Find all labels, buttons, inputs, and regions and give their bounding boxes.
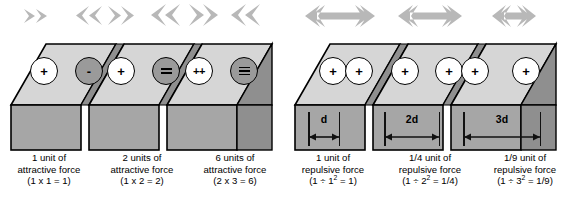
charge-negative-1: - xyxy=(75,57,103,85)
charge-label: + xyxy=(471,65,479,78)
caption-formula: (2 x 3 = 6) xyxy=(190,175,280,187)
repulsive-force-panel: + + + + + + d 2d xyxy=(287,0,574,202)
caption-repulsive-3: 1/9 unit of repulsive force (1 ÷ 32 = 1/… xyxy=(477,152,573,187)
formula-pre: (1 ÷ 1 xyxy=(309,175,333,186)
caption-attractive-1: 1 unit of attractive force (1 x 1 = 1) xyxy=(4,152,94,187)
caption-attractive-2: 2 units of attractive force (1 x 2 = 2) xyxy=(97,152,187,187)
charge-label: + xyxy=(522,65,530,78)
arrow-right-pair-2-icon xyxy=(186,2,224,28)
caption-repulsive-1: 1 unit of repulsive force (1 ÷ 12 = 1) xyxy=(287,152,379,187)
caption-line-1: 1/9 unit of xyxy=(477,152,573,164)
caption-formula: (1 ÷ 32 = 1/9) xyxy=(477,175,573,187)
caption-line-2: attractive force xyxy=(4,164,94,176)
arrow-right-pair-1-icon xyxy=(106,4,140,27)
caption-line-2: attractive force xyxy=(190,164,280,176)
charge-positive-r4: + xyxy=(435,57,463,85)
dimension-label: 3d xyxy=(463,113,541,125)
arrow-right-single-icon xyxy=(22,6,56,26)
charge-label: + xyxy=(355,65,363,78)
distance-dimension-d: d xyxy=(308,112,340,146)
double-arrow-long-icon xyxy=(301,3,379,29)
charge-negative-3 xyxy=(230,57,258,85)
dimension-double-arrow-icon xyxy=(463,131,541,143)
formula-post: = 1/9) xyxy=(525,175,552,186)
charge-label: + xyxy=(329,65,337,78)
caption-line-1: 1 unit of xyxy=(287,152,379,164)
charge-label: ++ xyxy=(193,66,205,77)
charge-label: + xyxy=(445,65,453,78)
double-arrow-short-icon xyxy=(489,3,539,29)
charge-negative-2 xyxy=(152,57,180,85)
charge-positive-2: + xyxy=(107,57,135,85)
charge-positive-3: ++ xyxy=(185,57,213,85)
caption-formula: (1 ÷ 12 = 1) xyxy=(287,175,379,187)
caption-line-2: attractive force xyxy=(97,164,187,176)
charge-label: - xyxy=(87,65,91,78)
double-arrow-medium-icon xyxy=(395,3,465,29)
charge-label-bars xyxy=(161,66,172,76)
distance-dimension-2d: 2d xyxy=(384,112,440,146)
arrow-left-pair-2-icon xyxy=(146,2,184,28)
attractive-force-panel: + - + ++ 1 unit of attractive force (1 x… xyxy=(0,0,287,202)
caption-repulsive-2: 1/4 unit of repulsive force (1 ÷ 22 = 1/… xyxy=(382,152,478,187)
charge-positive-r3: + xyxy=(391,57,419,85)
attractive-arrow-row xyxy=(0,0,287,32)
formula-pre: (1 ÷ 3 xyxy=(497,175,521,186)
charge-positive-r6: + xyxy=(512,57,540,85)
repulsive-arrow-row xyxy=(287,0,574,32)
caption-line-1: 1 unit of xyxy=(4,152,94,164)
caption-line-1: 2 units of xyxy=(97,152,187,164)
caption-line-1: 1/4 unit of xyxy=(382,152,478,164)
formula-pre: (1 ÷ 2 xyxy=(402,175,426,186)
attractive-captions: 1 unit of attractive force (1 x 1 = 1) 2… xyxy=(0,152,287,202)
distance-dimension-3d: 3d xyxy=(463,112,541,146)
caption-line-1: 6 units of xyxy=(190,152,280,164)
charge-positive-r2: + xyxy=(345,57,373,85)
charge-label: + xyxy=(401,65,409,78)
arrow-left-pair-3-icon xyxy=(226,2,264,28)
dimension-double-arrow-icon xyxy=(308,131,340,143)
charge-label-bars xyxy=(239,64,250,77)
dimension-double-arrow-icon xyxy=(384,131,440,143)
charge-label: + xyxy=(40,65,48,78)
charge-positive-1: + xyxy=(30,57,58,85)
caption-attractive-3: 6 units of attractive force (2 x 3 = 6) xyxy=(190,152,280,187)
caption-formula: (1 ÷ 22 = 1/4) xyxy=(382,175,478,187)
charge-positive-r5: + xyxy=(461,57,489,85)
repulsive-captions: 1 unit of repulsive force (1 ÷ 12 = 1) 1… xyxy=(287,152,574,202)
charge-positive-r1: + xyxy=(319,57,347,85)
caption-formula: (1 x 1 = 1) xyxy=(4,175,94,187)
attractive-blocks-illustration xyxy=(0,30,287,152)
charge-label: + xyxy=(117,65,125,78)
dimension-label: d xyxy=(308,113,340,125)
caption-formula: (1 x 2 = 2) xyxy=(97,175,187,187)
force-comparison-figure: + - + ++ 1 unit of attractive force (1 x… xyxy=(0,0,574,202)
dimension-label: 2d xyxy=(384,113,440,125)
formula-post: = 1/4) xyxy=(430,175,457,186)
formula-post: = 1) xyxy=(337,175,356,186)
arrow-left-pair-1-icon xyxy=(72,4,106,27)
